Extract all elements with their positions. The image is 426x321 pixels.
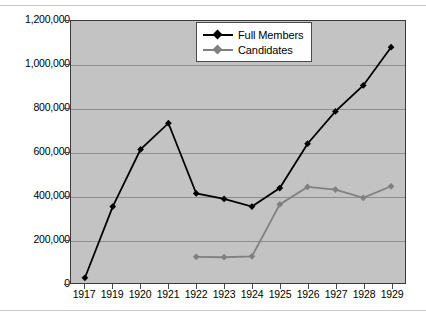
x-axis-tick — [196, 284, 197, 289]
data-point-marker — [388, 183, 395, 190]
series-line — [85, 47, 391, 278]
x-axis-tick — [224, 284, 225, 289]
data-point-marker — [109, 203, 116, 210]
legend-item[interactable]: Candidates — [203, 42, 303, 57]
y-axis-tick-label: 200,000 — [0, 234, 70, 244]
line-chart-figure: 0200,000400,000600,000800,0001,000,0001,… — [0, 0, 426, 321]
legend-item-label: Full Members — [238, 29, 303, 41]
chart-legend: Full MembersCandidates — [196, 22, 312, 62]
x-axis-tick — [84, 284, 85, 289]
x-axis-tick — [336, 284, 337, 289]
data-point-marker — [221, 254, 228, 261]
x-axis-tick — [392, 284, 393, 289]
legend-item-label: Candidates — [238, 44, 293, 56]
x-axis-tick — [140, 284, 141, 289]
y-axis-tick-label: 1,000,000 — [0, 58, 70, 68]
x-axis-tick — [168, 284, 169, 289]
data-point-marker — [332, 186, 339, 193]
data-point-marker — [193, 190, 200, 197]
x-axis-tick — [364, 284, 365, 289]
y-axis-tick-label: 800,000 — [0, 102, 70, 112]
data-point-marker — [82, 274, 89, 281]
x-axis-tick-label: 1929 — [369, 288, 415, 300]
x-axis-tick — [112, 284, 113, 289]
y-axis-tick-label: 600,000 — [0, 146, 70, 156]
legend-item[interactable]: Full Members — [203, 27, 303, 42]
data-point-marker — [193, 253, 200, 260]
y-axis-tick-label: 0 — [0, 278, 70, 288]
data-point-marker — [221, 196, 228, 203]
data-point-marker — [360, 194, 367, 201]
x-axis-tick — [280, 284, 281, 289]
y-axis-tick-label: 400,000 — [0, 190, 70, 200]
x-axis-tick — [252, 284, 253, 289]
x-axis-tick — [308, 284, 309, 289]
legend-marker-icon — [203, 44, 233, 55]
legend-marker-icon — [203, 29, 233, 40]
x-axis: 1917191919201921192219231924192519261927… — [70, 288, 406, 310]
data-point-marker — [249, 253, 256, 260]
y-axis-tick-label: 1,200,000 — [0, 14, 70, 24]
